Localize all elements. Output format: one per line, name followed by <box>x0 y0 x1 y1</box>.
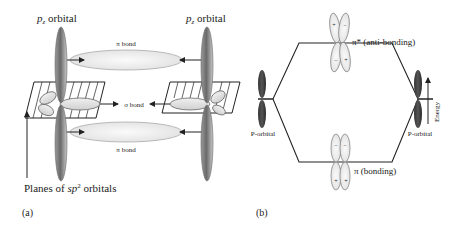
pi-bond-top-label: π bond <box>116 40 136 48</box>
caption-b: (b) <box>256 207 268 219</box>
caption-a: (a) <box>22 207 33 219</box>
pi-bond-bottom-label: π bond <box>116 146 136 154</box>
p-orbital-left-label: P-orbital <box>251 130 276 138</box>
energy-axis-label: Energy <box>433 101 441 122</box>
planes-label: Planes of sp2 orbitals <box>24 182 116 194</box>
pz-orbital-right-label: pz orbital <box>185 12 226 26</box>
pz-orbital-left-label: pz orbital <box>36 12 77 26</box>
pi-bond-diagram: π bond π bond <box>0 0 461 229</box>
antibonding-label: π* (anti-bonding) <box>352 37 415 47</box>
bonding-label: π (bonding) <box>354 166 396 176</box>
sp2-plane-right <box>162 82 240 117</box>
pi-bond-bottom-cloud <box>70 122 182 142</box>
pi-bond-top-cloud <box>70 50 182 70</box>
panel-b: P-orbital P-orbital Energy + − − + π* (a… <box>251 12 441 219</box>
panel-a: π bond π bond <box>22 12 240 219</box>
sigma-bond-label: σ bond <box>124 101 144 109</box>
p-orbital-right-label: P-orbital <box>408 130 433 138</box>
